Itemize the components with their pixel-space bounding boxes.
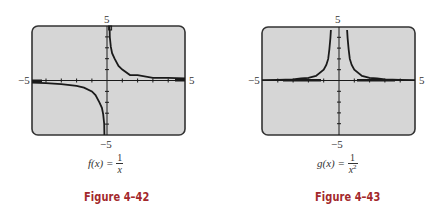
denominator-exponent: 2 — [353, 163, 357, 171]
axis-label-bottom: −5 — [331, 139, 343, 150]
figure-4-42: 5 −5 −5 5 f(x) = 1x Figure 4–42 — [0, 0, 221, 217]
axis-label-bottom: −5 — [100, 139, 112, 150]
function-caption: f(x) = 1x — [88, 153, 123, 175]
function-name: g(x) = — [317, 157, 348, 169]
axis-label-top: 5 — [104, 14, 110, 25]
denominator: x — [116, 164, 123, 175]
fraction: 1x — [116, 153, 123, 175]
numerator: 1 — [116, 153, 123, 164]
axis-label-left: −5 — [248, 75, 260, 86]
function-caption: g(x) = 1x2 — [317, 153, 358, 175]
graph-f-reciprocal — [0, 0, 221, 217]
axis-label-right: 5 — [189, 75, 195, 86]
axis-label-top: 5 — [335, 14, 341, 25]
denominator: x2 — [348, 164, 358, 175]
figure-label: Figure 4–42 — [84, 190, 149, 204]
graph-g-reciprocal-square — [221, 0, 442, 217]
fraction: 1x2 — [348, 153, 358, 175]
figure-label: Figure 4–43 — [315, 190, 380, 204]
axis-label-right: 5 — [419, 75, 425, 86]
axis-label-left: −5 — [18, 75, 30, 86]
denominator-base: x — [117, 164, 121, 175]
function-name: f(x) = — [88, 157, 116, 169]
figure-4-43: 5 −5 −5 5 g(x) = 1x2 Figure 4–43 — [221, 0, 442, 217]
